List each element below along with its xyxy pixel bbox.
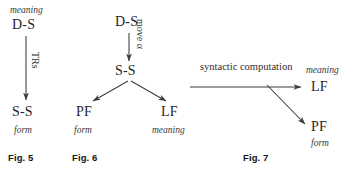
- fig5-edge-label-trs: TRs: [30, 52, 41, 69]
- fig6-edge-label-move-alpha: move α: [135, 19, 146, 49]
- fig6-caption: Fig. 6: [72, 152, 97, 163]
- fig5-top-gloss: meaning: [10, 5, 43, 15]
- fig6-arrow-ss-to-lf: [131, 81, 166, 101]
- figure-canvas: meaning D-S TRs S-S form Fig. 5 D-S move…: [0, 0, 346, 177]
- fig7-gloss-lf: meaning: [306, 65, 339, 75]
- fig7-arrow-to-pf: [267, 85, 305, 124]
- fig5-node-ss: S-S: [12, 104, 33, 120]
- fig6-gloss-pf: form: [74, 125, 92, 135]
- fig6-node-ss: S-S: [115, 63, 136, 79]
- fig6-node-lf: LF: [161, 104, 178, 120]
- arrow-layer: [0, 0, 346, 177]
- fig5-bottom-gloss: form: [14, 125, 32, 135]
- fig7-gloss-pf: form: [311, 138, 329, 148]
- fig5-caption: Fig. 5: [8, 152, 33, 163]
- fig7-node-lf: LF: [311, 79, 328, 95]
- fig5-node-ds: D-S: [12, 17, 35, 33]
- fig7-caption: Fig. 7: [243, 152, 268, 163]
- fig7-node-pf: PF: [311, 119, 327, 135]
- fig6-arrow-ss-to-pf: [93, 81, 128, 101]
- fig6-gloss-lf: meaning: [152, 125, 185, 135]
- fig7-edge-label-syntactic-computation: syntactic computation: [200, 61, 292, 72]
- fig6-node-pf: PF: [76, 104, 92, 120]
